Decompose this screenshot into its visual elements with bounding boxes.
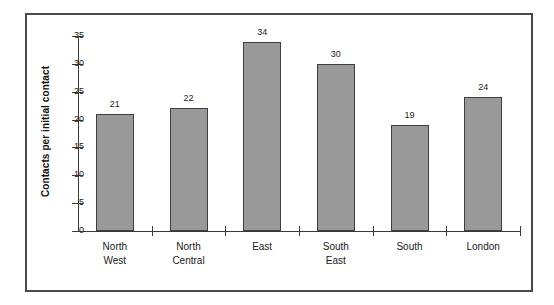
x-category-label-line1: North bbox=[103, 241, 127, 252]
y-axis-title: Contacts per initial contact bbox=[40, 47, 51, 217]
y-tick-label: 10 bbox=[62, 170, 84, 179]
x-tick-mark bbox=[152, 226, 153, 236]
y-tick-label: 5 bbox=[62, 198, 84, 207]
y-tick-label-wrap: 10 bbox=[44, 170, 84, 179]
x-tick-mark bbox=[225, 226, 226, 236]
bar[interactable] bbox=[170, 108, 208, 231]
y-tick-label-wrap: 30 bbox=[44, 59, 84, 68]
bar[interactable] bbox=[391, 125, 429, 231]
y-tick-label-wrap: 0 bbox=[44, 226, 84, 235]
x-category-label-line1: South bbox=[323, 241, 349, 252]
x-tick-mark bbox=[299, 226, 300, 236]
bar-value-label: 19 bbox=[385, 110, 435, 120]
x-category-label-line2: East bbox=[296, 254, 376, 268]
x-tick-mark bbox=[373, 226, 374, 236]
x-category-label: East bbox=[222, 240, 302, 254]
y-tick-label: 15 bbox=[62, 142, 84, 151]
x-category-label-line1: South bbox=[396, 241, 422, 252]
y-tick-label-wrap: 25 bbox=[44, 87, 84, 96]
bar-value-label: 30 bbox=[311, 49, 361, 59]
x-category-label-line2: Central bbox=[149, 254, 229, 268]
x-category-label-line1: North bbox=[176, 241, 200, 252]
y-tick-label: 25 bbox=[62, 87, 84, 96]
y-tick-label: 35 bbox=[62, 31, 84, 40]
chart-figure: Contacts per initial contact 05101520253… bbox=[0, 0, 554, 305]
x-category-label: NorthCentral bbox=[149, 240, 229, 268]
y-tick-label-wrap: 15 bbox=[44, 142, 84, 151]
x-category-label-line1: East bbox=[252, 241, 272, 252]
y-tick-label-wrap: 5 bbox=[44, 198, 84, 207]
y-tick-label: 0 bbox=[62, 226, 84, 235]
x-category-label: SouthEast bbox=[296, 240, 376, 268]
bar[interactable] bbox=[464, 97, 502, 231]
x-tick-mark bbox=[446, 226, 447, 236]
x-category-label: London bbox=[443, 240, 523, 254]
bar[interactable] bbox=[243, 42, 281, 231]
bar-value-label: 22 bbox=[164, 93, 214, 103]
y-tick-label: 20 bbox=[62, 115, 84, 124]
bar[interactable] bbox=[317, 64, 355, 231]
bar-value-label: 34 bbox=[237, 27, 287, 37]
y-tick-label: 30 bbox=[62, 59, 84, 68]
bar-value-label: 24 bbox=[458, 82, 508, 92]
x-category-label-line2: West bbox=[75, 254, 155, 268]
bar[interactable] bbox=[96, 114, 134, 231]
x-tick-mark bbox=[520, 226, 521, 236]
x-category-label: NorthWest bbox=[75, 240, 155, 268]
bar-chart-plot-area: Contacts per initial contact 05101520253… bbox=[0, 0, 554, 305]
bar-value-label: 21 bbox=[90, 99, 140, 109]
y-tick-label-wrap: 35 bbox=[44, 31, 84, 40]
y-tick-label-wrap: 20 bbox=[44, 115, 84, 124]
x-category-label: South bbox=[370, 240, 450, 254]
x-category-label-line1: London bbox=[466, 241, 499, 252]
